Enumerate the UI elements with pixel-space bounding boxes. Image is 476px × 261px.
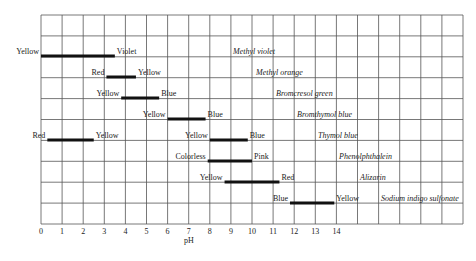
x-tick-label: 14 xyxy=(332,227,340,237)
high-color-label: Blue xyxy=(161,89,176,99)
x-tick-label: 8 xyxy=(208,227,212,237)
indicator-name: Thymol blue xyxy=(318,131,358,141)
low-color-label: Yellow xyxy=(96,89,119,99)
x-tick-label: 11 xyxy=(269,227,277,237)
low-color-label: Red xyxy=(92,68,105,78)
x-tick-label: 1 xyxy=(60,227,64,237)
indicator-name: Methyl orange xyxy=(256,68,303,78)
x-tick-label: 5 xyxy=(145,227,149,237)
high-color-label: Yellow xyxy=(96,131,119,141)
low-color-label: Yellow xyxy=(185,131,208,141)
low-color-label: Blue xyxy=(273,194,288,204)
indicator-name: Bromcresol green xyxy=(276,89,333,99)
x-tick-label: 9 xyxy=(229,227,233,237)
x-tick-label: 0 xyxy=(39,227,43,237)
high-color-label: Red xyxy=(281,173,294,183)
indicator-name: Phenolphthalein xyxy=(339,152,392,162)
indicator-name: Alizarin xyxy=(360,173,386,183)
indicator-name: Bromthymol blue xyxy=(297,110,352,120)
high-color-label: Yellow xyxy=(138,68,161,78)
high-color-label: Blue xyxy=(250,131,265,141)
x-axis-label: pH xyxy=(184,236,194,246)
high-color-label: Violet xyxy=(117,47,137,57)
high-color-label: Blue xyxy=(208,110,223,120)
low-color-label: Red xyxy=(32,131,45,141)
x-tick-label: 6 xyxy=(166,227,170,237)
low-color-label: Yellow xyxy=(143,110,166,120)
x-tick-label: 12 xyxy=(290,227,298,237)
x-tick-label: 13 xyxy=(311,227,319,237)
low-color-label: Yellow xyxy=(200,173,223,183)
x-tick-label: 3 xyxy=(102,227,106,237)
low-color-label: Colorless xyxy=(175,152,205,162)
indicator-chart xyxy=(0,0,476,261)
high-color-label: Yellow xyxy=(336,194,359,204)
x-tick-label: 10 xyxy=(248,227,256,237)
low-color-label: Yellow xyxy=(16,47,39,57)
x-tick-label: 4 xyxy=(123,227,127,237)
indicator-name: Sodium indigo sulfonate xyxy=(381,194,459,204)
high-color-label: Pink xyxy=(254,152,269,162)
indicator-name: Methyl violet xyxy=(233,47,275,57)
x-tick-label: 2 xyxy=(81,227,85,237)
